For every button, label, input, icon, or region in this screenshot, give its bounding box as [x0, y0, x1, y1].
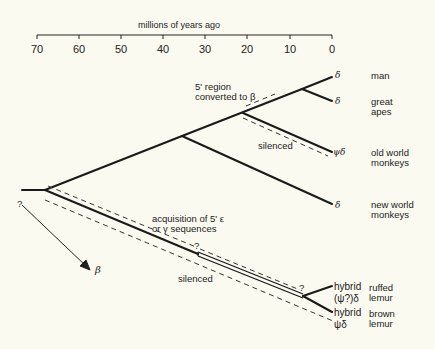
time-axis: [37, 35, 332, 39]
taxon-man: man: [371, 71, 389, 81]
annotation-silenced-lower: silenced: [178, 274, 213, 284]
beta-label: β: [95, 265, 101, 275]
hybrid-double-line: [198, 252, 303, 298]
gene-great-apes: δ: [335, 96, 340, 106]
annotation-silenced-upper: silenced: [258, 141, 293, 151]
tick-label: 10: [284, 43, 296, 55]
question-mid: ?: [194, 241, 199, 251]
gene-man: δ: [335, 70, 340, 80]
question-end: ?: [299, 283, 304, 293]
annotation-acquisition: acquisition of 5' ε or γ sequences: [152, 214, 224, 234]
tick-label: 20: [241, 43, 253, 55]
taxon-great-apes: great apes: [371, 97, 393, 117]
tick-label: 70: [31, 43, 43, 55]
taxon-brown-lemur: brown lemur: [369, 309, 395, 329]
tick-label: 0: [329, 43, 335, 55]
gene-ruffed-lemur: hybrid (ψ?)δ: [334, 281, 361, 305]
question-root: ?: [17, 199, 22, 209]
gene-new-world: δ: [335, 200, 340, 210]
taxon-new-world-monkeys: new world monkeys: [371, 200, 414, 220]
tick-label: 50: [115, 43, 127, 55]
annotation-converted: 5' region converted to β: [195, 82, 255, 102]
gene-old-world: ψδ: [333, 147, 345, 157]
tick-label: 40: [157, 43, 169, 55]
taxon-old-world-monkeys: old world monkeys: [371, 148, 409, 168]
taxon-ruffed-lemur: ruffed lemur: [369, 283, 393, 303]
tick-label: 30: [199, 43, 211, 55]
tick-label: 60: [73, 43, 85, 55]
axis-title: millions of years ago: [138, 20, 220, 30]
gene-brown-lemur: hybrid ψδ: [334, 307, 361, 331]
